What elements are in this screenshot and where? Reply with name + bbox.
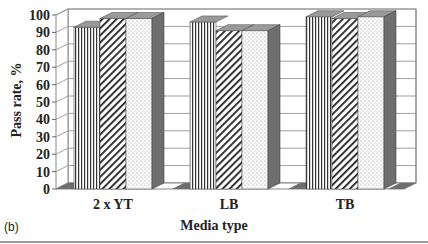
- bar: [358, 11, 396, 189]
- x-axis-label: Media type: [0, 218, 428, 234]
- y-tick-label: 100: [29, 8, 50, 23]
- x-tick-label: TB: [336, 197, 355, 212]
- y-tick-label: 70: [36, 60, 50, 75]
- x-tick-label: LB: [220, 197, 239, 212]
- bar: [126, 12, 164, 189]
- panel-label: (b): [4, 220, 19, 234]
- y-axis-label: Pass rate, %: [9, 55, 25, 145]
- y-tick-label: 20: [36, 147, 50, 162]
- y-tick-label: 40: [36, 112, 50, 127]
- chart-plot-area: 01020304050607080901002 x YTLBTB: [0, 0, 428, 244]
- y-tick-label: 80: [36, 43, 50, 58]
- divider: [0, 241, 428, 243]
- y-tick-label: 90: [36, 25, 50, 40]
- y-tick-label: 10: [36, 165, 50, 180]
- y-tick-label: 30: [36, 130, 50, 145]
- pass-rate-chart: 01020304050607080901002 x YTLBTB Pass ra…: [0, 0, 428, 244]
- x-tick-label: 2 x YT: [93, 197, 134, 212]
- y-tick-label: 0: [43, 182, 50, 197]
- y-tick-label: 50: [36, 95, 50, 110]
- y-tick-label: 60: [36, 78, 50, 93]
- bar: [242, 25, 280, 189]
